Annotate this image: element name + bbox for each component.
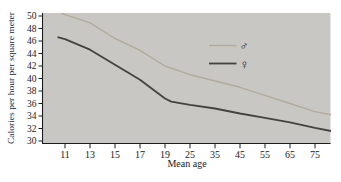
x-tick-label: 17	[135, 149, 145, 160]
x-tick-label: 65	[285, 149, 295, 160]
y-axis-ticks: 3032343638404244464850	[27, 11, 43, 146]
x-tick-label: 11	[60, 149, 70, 160]
y-tick-label: 48	[27, 24, 37, 34]
y-tick-label: 50	[27, 11, 37, 21]
x-tick-label: 55	[260, 149, 270, 160]
plot-background	[43, 13, 331, 144]
y-tick-label: 44	[27, 49, 37, 59]
x-tick-label: 45	[235, 149, 245, 160]
y-tick-label: 30	[27, 136, 37, 146]
x-tick-label: 75	[310, 149, 320, 160]
male-symbol-icon: ♂	[240, 40, 249, 52]
y-axis-title: Calories per hour per square meter	[6, 12, 16, 144]
metabolic-rate-chart: 3032343638404244464850 11131517192535455…	[0, 0, 341, 182]
y-tick-label: 46	[27, 36, 37, 46]
chart-canvas: 3032343638404244464850 11131517192535455…	[0, 0, 341, 182]
x-tick-label: 15	[110, 149, 120, 160]
x-tick-label: 13	[85, 149, 95, 160]
x-axis-title: Mean age	[167, 158, 207, 169]
y-tick-label: 36	[27, 99, 37, 109]
female-symbol-icon: ♀	[240, 57, 250, 72]
y-tick-label: 32	[27, 124, 37, 134]
x-tick-label: 35	[210, 149, 220, 160]
y-tick-label: 38	[27, 86, 37, 96]
y-tick-label: 34	[27, 111, 37, 121]
y-tick-label: 40	[27, 74, 37, 84]
y-tick-label: 42	[27, 61, 37, 71]
